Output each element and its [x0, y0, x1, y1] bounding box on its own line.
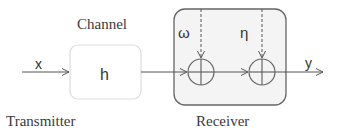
adder-2-icon [249, 59, 275, 85]
channel-label: Channel [77, 16, 127, 32]
receiver-box [174, 9, 286, 105]
channel-symbol: h [100, 66, 109, 83]
receiver-label: Receiver [196, 113, 249, 129]
input-symbol: x [35, 56, 42, 72]
adder-1-icon [188, 59, 214, 85]
noise2-symbol: η [240, 24, 248, 41]
noise1-symbol: ω [178, 24, 190, 41]
system-diagram: Channel Transmitter Receiver h x y ω η [0, 0, 341, 133]
output-symbol: y [305, 55, 312, 71]
transmitter-label: Transmitter [6, 113, 75, 129]
